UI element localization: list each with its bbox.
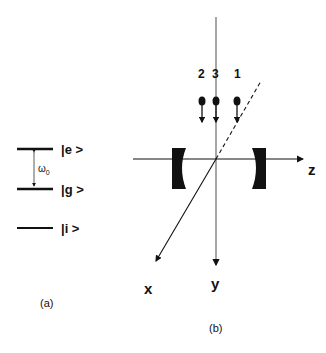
atom-dot xyxy=(234,97,241,106)
diagram-svg: ω0 |e > |g > |i > (a) xyxy=(0,0,326,353)
cavity-qed-diagram: ω0 |e > |g > |i > (a) xyxy=(0,0,326,353)
right-mirror xyxy=(252,148,266,189)
atom-2 xyxy=(199,97,206,123)
atom-label-1: 1 xyxy=(234,67,241,81)
atom-1 xyxy=(234,97,241,123)
z-axis-label: z xyxy=(308,161,316,178)
ket-g-label: |g > xyxy=(61,182,84,197)
x-axis-line xyxy=(156,159,216,261)
caption-a: (a) xyxy=(40,297,53,309)
caption-b: (b) xyxy=(209,322,222,334)
left-mirror xyxy=(172,148,186,189)
ket-e-label: |e > xyxy=(61,142,83,157)
atom-path-dashed-line xyxy=(216,81,261,159)
cavity-geometry: 2 3 1 z x y (b) xyxy=(133,17,316,334)
energy-level-diagram: ω0 |e > |g > |i > (a) xyxy=(17,142,84,309)
omega-label: ω0 xyxy=(38,163,50,176)
ket-i-label: |i > xyxy=(61,221,80,236)
x-axis-label: x xyxy=(144,280,153,297)
atom-dot xyxy=(199,97,206,106)
atom-dot xyxy=(213,97,220,106)
y-axis-label: y xyxy=(211,275,220,292)
atom-3 xyxy=(213,97,220,123)
atom-label-2: 2 xyxy=(198,67,205,81)
atom-label-3: 3 xyxy=(212,67,219,81)
